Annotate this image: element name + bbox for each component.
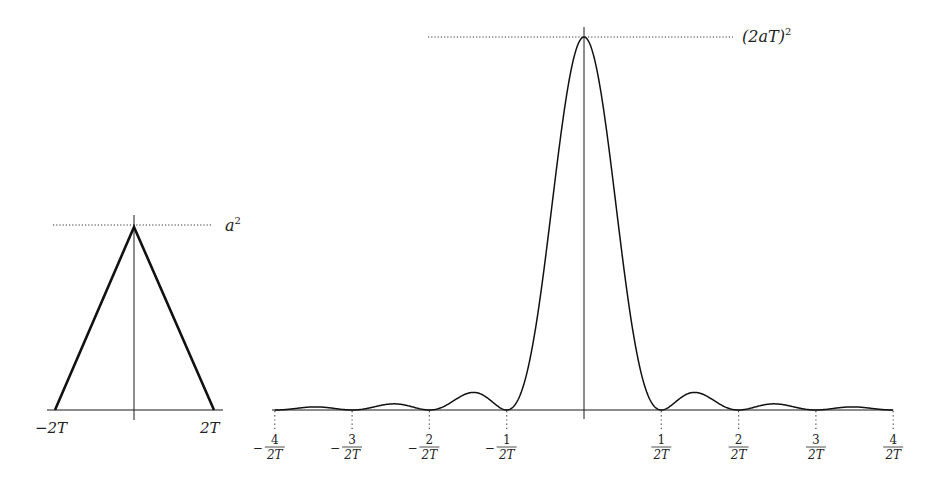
tick-label: −42T [253, 433, 285, 462]
svg-text:2T: 2T [343, 448, 361, 462]
svg-text:−: − [485, 441, 495, 455]
svg-text:2T: 2T [266, 448, 284, 462]
svg-text:−: − [330, 441, 340, 455]
left-xlabel-neg: −2T [35, 419, 68, 437]
svg-text:2T: 2T [807, 448, 825, 462]
svg-text:2: 2 [426, 433, 434, 447]
svg-text:−: − [407, 441, 417, 455]
right-peak-label: (2aT)2 [742, 26, 791, 46]
svg-text:2: 2 [735, 433, 743, 447]
svg-text:3: 3 [348, 433, 356, 447]
svg-text:4: 4 [271, 433, 279, 447]
tick-label: 22T [729, 433, 749, 462]
svg-text:3: 3 [812, 433, 820, 447]
svg-text:2T: 2T [421, 448, 439, 462]
tick-label: −22T [407, 433, 439, 462]
figure-canvas: a2 −2T 2T (2aT)2 −42T−32T−22T−12T12T22T3… [0, 0, 937, 486]
svg-text:2T: 2T [498, 448, 516, 462]
tick-label: 12T [651, 433, 671, 462]
svg-text:1: 1 [503, 433, 511, 447]
svg-text:1: 1 [657, 433, 665, 447]
x-tick-group: −42T−32T−22T−12T12T22T32T42T [253, 411, 903, 462]
svg-text:2T: 2T [730, 448, 748, 462]
tick-label: −12T [485, 433, 517, 462]
right-plot: (2aT)2 −42T−32T−22T−12T12T22T32T42T [253, 26, 903, 462]
tick-label: 32T [806, 433, 826, 462]
tick-label: −32T [330, 433, 362, 462]
left-xlabel-pos: 2T [199, 419, 221, 437]
left-plot: a2 −2T 2T [35, 215, 241, 437]
left-peak-label: a2 [225, 215, 241, 235]
svg-text:2T: 2T [652, 448, 670, 462]
svg-text:2T: 2T [884, 448, 902, 462]
tick-label: 42T [883, 433, 903, 462]
svg-text:−: − [253, 441, 263, 455]
svg-text:4: 4 [889, 433, 897, 447]
